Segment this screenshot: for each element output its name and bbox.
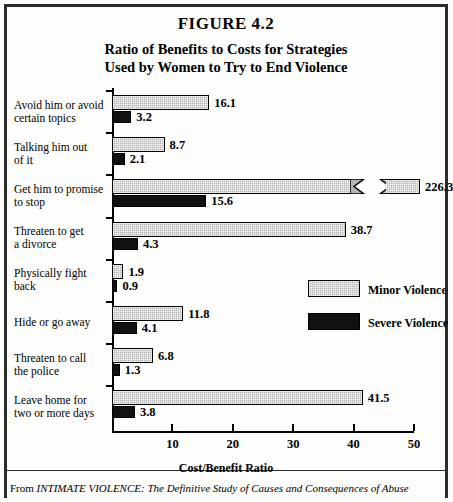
category-label: Hide or go away	[14, 316, 112, 329]
category-label: Talking him outof it	[14, 141, 112, 167]
bar-value-severe-violence: 0.9	[122, 279, 138, 294]
x-axis-tick	[413, 424, 415, 431]
bar-severe-violence	[112, 280, 117, 292]
bar-minor-violence	[112, 390, 363, 405]
x-axis-title: Cost/Benefit Ratio	[0, 461, 452, 476]
bar-severe-violence	[112, 406, 135, 418]
page-border-left	[4, 4, 7, 498]
legend-swatch-severe-violence	[308, 313, 360, 330]
bar-value-severe-violence: 2.1	[130, 152, 146, 167]
figure-number: FIGURE 4.2	[0, 14, 452, 34]
legend-label-severe-violence: Severe Violence	[368, 316, 448, 331]
category-label: Avoid him or avoidcertain topics	[14, 99, 112, 125]
y-axis-tick	[106, 90, 113, 92]
y-axis-tick	[106, 217, 113, 219]
x-axis-tick	[292, 424, 294, 431]
bar-value-severe-violence: 3.8	[140, 405, 156, 420]
bar-minor-violence-broken-right	[386, 179, 420, 194]
bar-value-severe-violence: 3.2	[136, 110, 152, 125]
category-label-line: of it	[14, 154, 112, 167]
bar-minor-violence	[112, 306, 183, 321]
figure-title: Ratio of Benefits to Costs for Strategie…	[0, 40, 452, 76]
category-label-line: to stop	[14, 196, 112, 209]
bar-severe-violence	[112, 111, 131, 123]
y-axis-tick	[106, 343, 113, 345]
category-label-line: two or more days	[14, 407, 112, 420]
category-label: Threaten to callthe police	[14, 352, 112, 378]
bar-value-minor-violence: 16.1	[214, 96, 236, 111]
bar-value-minor-violence: 226.3	[425, 180, 453, 195]
x-axis-tick	[353, 424, 355, 431]
bar-value-severe-violence: 4.3	[143, 237, 159, 252]
bar-value-minor-violence: 1.9	[128, 265, 144, 280]
x-axis-line	[112, 431, 414, 433]
page-border-top	[4, 4, 448, 7]
bar-value-minor-violence: 11.8	[188, 307, 209, 322]
category-label-line: Get him to promise	[14, 183, 112, 196]
bar-minor-violence	[112, 264, 123, 279]
category-label-line: Threaten to call	[14, 352, 112, 365]
source-prefix: From	[10, 482, 37, 494]
source-note: From INTIMATE VIOLENCE: The Definitive S…	[10, 481, 446, 495]
y-axis-tick	[106, 259, 113, 261]
bar-severe-violence	[112, 364, 120, 376]
category-label-line: certain topics	[14, 112, 112, 125]
bar-value-severe-violence: 4.1	[142, 321, 158, 336]
category-label: Get him to promiseto stop	[14, 183, 112, 209]
x-axis-tick-label: 10	[152, 437, 192, 452]
bar-minor-violence-broken-left	[112, 179, 350, 194]
category-label-line: Avoid him or avoid	[14, 99, 112, 112]
category-label-line: the police	[14, 365, 112, 378]
category-label-line: Threaten to get	[14, 225, 112, 238]
bar-value-minor-violence: 38.7	[351, 223, 373, 238]
legend-swatch-minor-violence	[308, 280, 360, 297]
legend-label-minor-violence: Minor Violence	[368, 283, 447, 298]
figure-title-line-1: Ratio of Benefits to Costs for Strategie…	[0, 40, 452, 58]
category-label-line: Leave home for	[14, 394, 112, 407]
bar-severe-violence	[112, 322, 137, 334]
x-axis-tick-label: 20	[213, 437, 253, 452]
bar-minor-violence	[112, 222, 346, 237]
bar-value-minor-violence: 6.8	[158, 349, 174, 364]
page-border-right	[445, 4, 448, 498]
category-label-line: Hide or go away	[14, 316, 112, 329]
y-axis-tick	[106, 174, 113, 176]
y-axis-tick	[106, 301, 113, 303]
source-title: INTIMATE VIOLENCE: The Definitive Study …	[37, 482, 409, 494]
bar-severe-violence	[112, 238, 138, 250]
figure-title-line-2: Used by Women to Try to End Violence	[0, 58, 452, 76]
bar-severe-violence	[112, 153, 125, 165]
category-label-line: a divorce	[14, 238, 112, 251]
bar-value-severe-violence: 15.6	[211, 194, 233, 209]
bar-value-minor-violence: 41.5	[368, 391, 390, 406]
bar-value-minor-violence: 8.7	[170, 138, 186, 153]
category-label-line: Physically fight	[14, 267, 112, 280]
bar-minor-violence	[112, 95, 209, 110]
category-label-line: back	[14, 280, 112, 293]
bar-severe-violence	[112, 195, 206, 207]
bar-value-severe-violence: 1.3	[125, 363, 141, 378]
y-axis-tick	[106, 132, 113, 134]
bar-minor-violence	[112, 137, 165, 152]
axis-break-zigzag-left-icon	[350, 179, 368, 198]
x-axis-tick-label: 40	[334, 437, 374, 452]
x-axis-tick	[232, 424, 234, 431]
y-axis-tick	[106, 385, 113, 387]
x-axis-tick-label: 30	[273, 437, 313, 452]
x-axis-tick-label: 50	[394, 437, 434, 452]
category-label: Leave home fortwo or more days	[14, 394, 112, 420]
category-label-line: Talking him out	[14, 141, 112, 154]
category-label: Physically fightback	[14, 267, 112, 293]
bar-minor-violence	[112, 348, 153, 363]
category-label: Threaten to geta divorce	[14, 225, 112, 251]
x-axis-tick	[171, 424, 173, 431]
